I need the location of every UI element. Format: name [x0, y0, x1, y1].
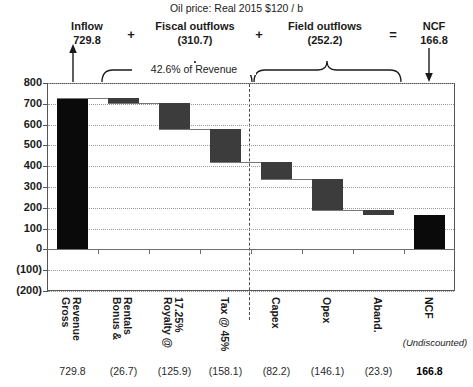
value-ncf: 166.8 [403, 365, 457, 377]
y-axis-tick-0: 0 [0, 242, 42, 254]
x-label-capex: Capex [270, 297, 282, 329]
value-bonus-rentals: (26.7) [97, 365, 151, 377]
gridline-800 [48, 83, 454, 84]
up-arrow-head [69, 44, 77, 53]
x-tick [149, 249, 150, 254]
fiscal-field-divider [249, 84, 250, 320]
value-opex: (146.1) [301, 365, 355, 377]
y-axis-tick-700: 700 [0, 97, 42, 109]
y-axis-tick-(100): (100) [0, 263, 42, 275]
value-capex: (82.2) [250, 365, 304, 377]
gridline-400 [48, 166, 454, 167]
gridline-(100) [48, 270, 454, 271]
x-tick [404, 249, 405, 254]
x-label-ncf: NCF [423, 297, 435, 319]
gridline-200 [48, 208, 454, 209]
gridline-(200) [48, 291, 454, 292]
y-axis-tick-100: 100 [0, 222, 42, 234]
x-label-gross-revenue: Revenue [71, 297, 83, 341]
y-axis-tick-300: 300 [0, 180, 42, 192]
field-curly-brace [254, 61, 401, 82]
bar-opex [312, 179, 344, 209]
y-axis-tick-800: 800 [0, 76, 42, 88]
bar-capex [261, 162, 293, 179]
y-axis-tick-200: 200 [0, 201, 42, 213]
x-tick [98, 249, 99, 254]
x-label-royalty-17-25: 17.25% [173, 297, 185, 333]
brace-note-percent-of-revenue: 42.6% of Revenue [132, 63, 256, 75]
gridline-300 [48, 187, 454, 188]
y-axis-tick-500: 500 [0, 138, 42, 150]
y-axis-tick-400: 400 [0, 159, 42, 171]
bar-tax-45 [210, 129, 242, 162]
value-gross-revenue: 729.8 [46, 365, 100, 377]
value-royalty-17-25: (125.9) [148, 365, 202, 377]
x-tick [353, 249, 354, 254]
y-axis-tick-600: 600 [0, 118, 42, 130]
x-label-tax-45: Tax @ 45% [219, 297, 231, 351]
gridline-500 [48, 145, 454, 146]
x-tick [200, 249, 201, 254]
x-label-bonus-rentals: Rentals [122, 297, 134, 335]
value-aband: (23.9) [352, 365, 406, 377]
x-tick [251, 249, 252, 254]
bar-ncf [414, 215, 446, 250]
bar-gross-revenue [57, 98, 89, 250]
x-label-aband: Aband. [372, 297, 384, 333]
value-tax-45: (158.1) [199, 365, 253, 377]
down-arrow-head [425, 73, 433, 82]
bar-aband [363, 210, 395, 215]
x-tick [302, 249, 303, 254]
ncf-undiscounted-note: (Undiscounted) [400, 337, 470, 348]
x-label-opex: Opex [321, 297, 333, 323]
header-connectors [0, 0, 473, 90]
y-axis-tick-(200): (200) [0, 284, 42, 296]
gridline-100 [48, 229, 454, 230]
gridline-600 [48, 125, 454, 126]
bar-royalty-17-25 [159, 103, 191, 129]
